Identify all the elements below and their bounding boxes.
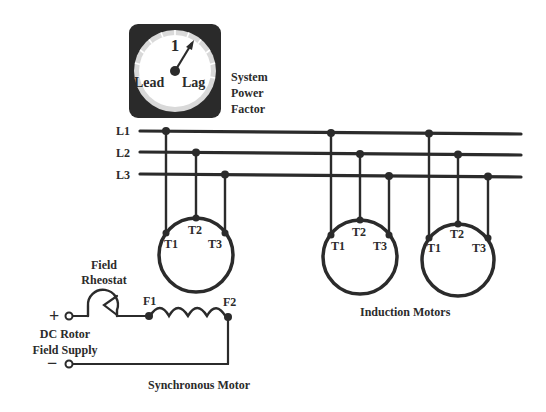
field-winding-coil xyxy=(150,308,226,317)
im1-terminal-t1: T1 xyxy=(331,239,345,253)
meter-title-line-2: Power xyxy=(231,86,264,100)
field-circuit: Field Rheostat + − DC Rotor Field Supply… xyxy=(32,258,250,392)
im2-terminal-t3: T3 xyxy=(472,241,486,255)
meter-title-line-3: Factor xyxy=(231,102,266,116)
rheostat-label-line-2: Rheostat xyxy=(81,273,126,287)
meter-title-line-1: System xyxy=(231,70,268,84)
terminal-dot xyxy=(222,230,229,237)
sync-terminal-t3: T3 xyxy=(208,237,222,251)
terminal-dot xyxy=(357,217,364,224)
junction-dot xyxy=(356,150,364,158)
junction-dot xyxy=(327,129,335,137)
meter-needle-pivot xyxy=(170,66,180,76)
supply-label-line-1: DC Rotor xyxy=(40,327,91,341)
im2-terminal-t2: T2 xyxy=(450,227,464,241)
rheostat-wiper xyxy=(104,296,117,315)
meter-lead-label: Lead xyxy=(134,75,165,90)
terminal-dot xyxy=(328,232,335,239)
bus-label-l2: L2 xyxy=(116,146,130,160)
junction-dot xyxy=(425,130,433,138)
bus-label-l3: L3 xyxy=(116,168,130,182)
meter-title: System Power Factor xyxy=(231,70,268,116)
junction-dot xyxy=(162,127,170,135)
sync-motor-caption: Synchronous Motor xyxy=(148,378,251,392)
junction-dot xyxy=(385,172,393,180)
sync-terminal-t2: T2 xyxy=(188,223,202,237)
junction-dot xyxy=(192,149,200,157)
junction-dot xyxy=(221,171,229,179)
meter-scale-unity-label: 1 xyxy=(171,36,180,55)
supply-plus-symbol: + xyxy=(49,306,59,326)
terminal-dot xyxy=(193,215,200,222)
supply-label-line-2: Field Supply xyxy=(32,343,97,357)
rheostat-label-line-1: Field xyxy=(91,258,117,272)
induction-motors-caption: Induction Motors xyxy=(360,305,451,319)
terminal-dot xyxy=(386,232,393,239)
im1-terminal-t2: T2 xyxy=(352,225,366,239)
f1-terminal-dot xyxy=(145,312,153,320)
field-terminal-f1: F1 xyxy=(143,294,156,308)
power-factor-meter: 1 Lead Lag xyxy=(129,24,221,118)
meter-lag-label: Lag xyxy=(182,75,205,90)
junction-dot xyxy=(454,151,462,159)
sync-terminal-t1: T1 xyxy=(164,237,178,251)
im2-terminal-t1: T1 xyxy=(427,241,441,255)
supply-negative-terminal xyxy=(66,361,73,368)
power-factor-diagram: 1 Lead Lag System Power Factor L1 L2 L3 … xyxy=(0,0,546,412)
terminal-dot xyxy=(163,230,170,237)
junction-dot xyxy=(484,173,492,181)
bus-label-l1: L1 xyxy=(116,124,130,138)
im1-terminal-t3: T3 xyxy=(373,239,387,253)
supply-positive-terminal xyxy=(66,313,73,320)
field-terminal-f2: F2 xyxy=(223,295,236,309)
